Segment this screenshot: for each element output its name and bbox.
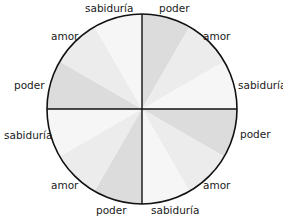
sector-label: poder: [240, 129, 271, 140]
wheel-diagram: [0, 0, 283, 220]
sector-label: sabiduría: [151, 205, 199, 216]
sector-label: amor: [203, 31, 230, 42]
sector-label: poder: [159, 3, 190, 14]
sector-label: amor: [51, 180, 78, 191]
sector-label: poder: [96, 205, 127, 216]
sector-label: sabiduría: [85, 3, 133, 14]
sector-label: sabiduría: [4, 130, 52, 141]
sector-label: amor: [203, 180, 230, 191]
sector-label: poder: [14, 80, 45, 91]
sector-label: sabiduría: [238, 80, 283, 91]
sector-label: amor: [51, 31, 78, 42]
